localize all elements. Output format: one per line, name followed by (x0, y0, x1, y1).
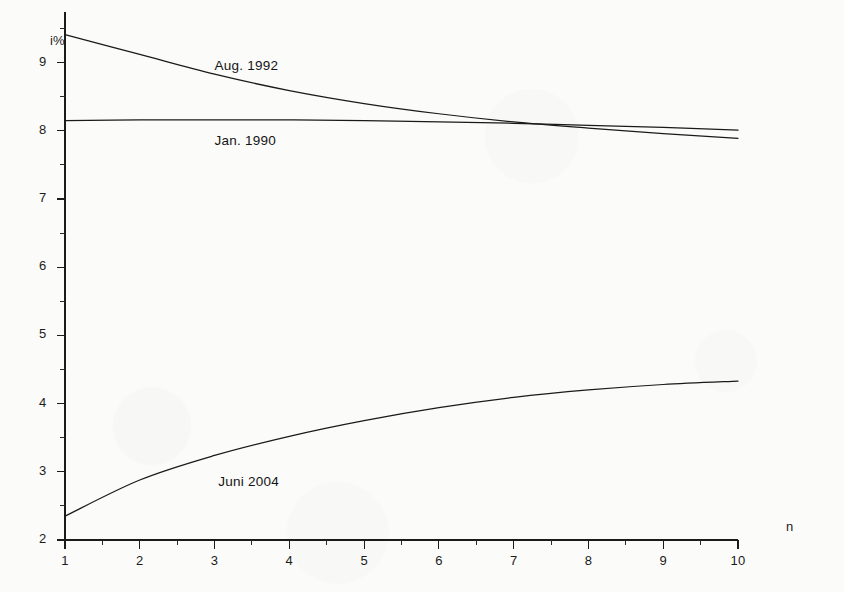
x-tick-label: 10 (731, 553, 746, 568)
x-tick-label: 1 (61, 553, 68, 568)
series-paths-group (65, 35, 738, 516)
y-tick-label: 3 (39, 463, 46, 478)
x-tick-label: 8 (585, 553, 592, 568)
series-label-2: Jan. 1990 (215, 133, 277, 148)
y-tick-label: 6 (39, 258, 46, 273)
x-tick-label: 5 (360, 553, 367, 568)
y-tick-label: 2 (39, 531, 46, 546)
x-tick-label: 9 (660, 553, 667, 568)
y-tick-label: 9 (39, 54, 46, 69)
chart-figure: i% n 2345678912345678910Aug. 1992Jan. 19… (0, 0, 844, 592)
x-tick-label: 7 (510, 553, 517, 568)
ticks-group (57, 29, 738, 550)
y-tick-label: 4 (39, 395, 46, 410)
series-label-1: Aug. 1992 (215, 58, 279, 73)
y-tick-label: 8 (39, 122, 46, 137)
series-line-2 (65, 120, 738, 130)
y-axis-title: i% (50, 33, 65, 48)
series-line-3 (65, 381, 738, 516)
x-tick-label: 2 (136, 553, 143, 568)
x-tick-label: 4 (286, 553, 293, 568)
y-tick-label: 5 (39, 326, 46, 341)
y-tick-label: 7 (39, 190, 46, 205)
series-line-1 (65, 35, 738, 139)
plot-canvas (0, 0, 844, 592)
series-label-3: Juni 2004 (218, 474, 279, 489)
x-tick-label: 3 (211, 553, 218, 568)
axes-group (65, 12, 738, 540)
x-tick-label: 6 (435, 553, 442, 568)
x-axis-title: n (786, 519, 793, 534)
